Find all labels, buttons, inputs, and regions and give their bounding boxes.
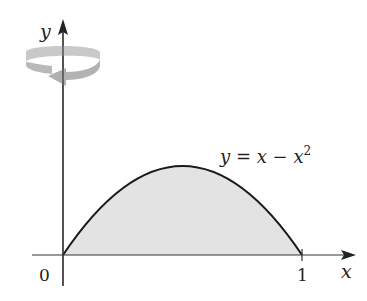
diagram-canvas: y x 0 1 y = x − x2: [0, 0, 367, 301]
y-axis-label: y: [39, 20, 51, 42]
equation-label: y = x − x2: [219, 144, 311, 167]
x-tick-label: 1: [297, 265, 308, 285]
origin-label: 0: [39, 265, 50, 285]
x-axis-label: x: [341, 260, 352, 282]
